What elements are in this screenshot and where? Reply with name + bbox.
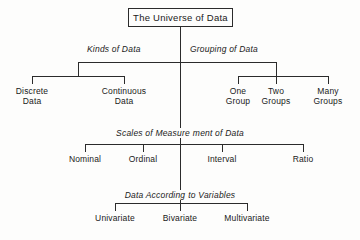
leaf-continuous-data-line2: Data [102,96,147,106]
tick-multivariate [247,203,248,211]
caption-scales-part1: Scales of Measure [116,128,190,138]
tick-univariate [115,203,116,211]
leaf-bivariate: Bivariate [163,213,197,223]
leaf-nominal: Nominal [69,154,101,164]
leaf-univariate-label: Univariate [95,213,135,223]
tick-one-group [238,76,239,84]
root-node-universe-of-data: The Universe of Data [128,8,233,27]
leaf-interval: Interval [207,154,236,164]
leaf-continuous-data-line1: Continuous [102,86,147,96]
variables-bracket-spine [115,203,247,204]
leaf-interval-label: Interval [207,154,236,164]
leaf-two-groups-line1: Two [268,86,284,96]
tick-bivariate [180,203,181,211]
leaf-multivariate: Multivariate [224,213,269,223]
leaf-ordinal-label: Ordinal [129,154,157,164]
caption-kinds-of-data: Kinds of Data [86,44,142,54]
tick-two-groups [276,76,277,84]
leaf-continuous-data: Continuous Data [102,86,147,106]
leaf-nominal-label: Nominal [69,154,101,164]
tick-discrete-data [32,76,33,84]
caption-scales-part2: ment of Data [193,128,244,138]
leaf-one-group: One Group [226,86,250,106]
leaf-many-groups-line1: Many [317,86,338,96]
leaf-bivariate-label: Bivariate [163,213,197,223]
tick-many-groups [328,76,329,84]
leaf-ordinal: Ordinal [129,154,157,164]
tick-continuous-data [124,76,125,84]
kinds-bracket-spine [32,76,124,77]
grouping-bracket-spine [238,76,328,77]
leaf-ratio: Ratio [293,154,314,164]
tick-ratio [303,144,304,152]
main-trunk-line [180,27,181,203]
leaf-univariate: Univariate [95,213,135,223]
tick-ordinal [143,144,144,152]
caption-data-according-to-variables: Data Accordingto Variables [124,190,237,200]
leaf-discrete-data: Discrete Data [16,86,48,106]
caption-grouping-of-data-text: Grouping of Data [190,44,258,54]
caption-variables-part1: Data According [125,190,186,200]
caption-kinds-of-data-text: Kinds of Data [87,44,141,54]
caption-scales-of-measurement-of-data: Scales of Measurement of Data [115,128,245,138]
caption-grouping-of-data: Grouping of Data [189,44,259,54]
leaf-two-groups: Two Groups [262,86,291,106]
root-node-label: The Universe of Data [133,12,228,23]
tick-interval [222,144,223,152]
leaf-discrete-data-line2: Data [16,96,48,106]
tier1-upper-spine [78,62,276,63]
scales-bracket-spine [85,144,303,145]
caption-variables-part2: to Variables [188,190,235,200]
leaf-one-group-line2: Group [226,96,250,106]
leaf-many-groups: Many Groups [314,86,343,106]
universe-of-data-diagram: The Universe of Data Kinds of Data Group… [0,0,360,240]
leaf-many-groups-line2: Groups [314,96,343,106]
tier1-stem-kinds [78,62,79,76]
tier1-stem-grouping [276,62,277,76]
leaf-multivariate-label: Multivariate [224,213,269,223]
tick-nominal [85,144,86,152]
leaf-ratio-label: Ratio [293,154,314,164]
leaf-two-groups-line2: Groups [262,96,291,106]
leaf-discrete-data-line1: Discrete [16,86,48,96]
leaf-one-group-line1: One [230,86,247,96]
